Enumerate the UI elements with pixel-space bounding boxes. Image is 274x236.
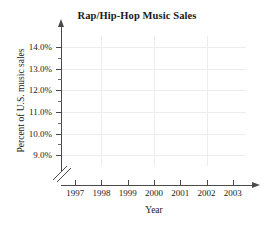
x-axis-arrow-icon: [252, 182, 260, 188]
gridline-vertical: [101, 36, 102, 166]
x-axis-tick-major: [154, 180, 155, 185]
y-axis-title: Percent of U.S. music sales: [16, 26, 27, 176]
x-axis-tick-major: [207, 180, 208, 185]
chart-container: Rap/Hip-Hop Music Sales 9.0%10.0%11.0%12…: [0, 0, 274, 236]
y-axis-tick-major: [56, 112, 62, 113]
y-axis-line: [61, 26, 62, 172]
y-axis-tick-major: [56, 69, 62, 70]
y-axis-tick-minor: [58, 101, 62, 102]
x-axis-tick-major: [233, 180, 234, 185]
x-axis-tick-major: [128, 180, 129, 185]
y-axis-tick-labels: 9.0%10.0%11.0%12.0%13.0%14.0%: [6, 0, 52, 236]
y-axis-arrow-icon: [58, 19, 64, 27]
y-axis-tick-minor: [58, 123, 62, 124]
gridline-vertical: [154, 36, 155, 166]
y-axis-tick-major: [56, 134, 62, 135]
y-axis-tick-minor: [58, 58, 62, 59]
plot-area: [62, 36, 246, 166]
x-axis-tick-label: 2003: [216, 188, 250, 198]
y-axis-tick-major: [56, 47, 62, 48]
x-axis-tick-major: [75, 180, 76, 185]
y-axis-tick-minor: [58, 79, 62, 80]
y-axis-tick-minor: [58, 144, 62, 145]
x-axis-tick-major: [180, 180, 181, 185]
x-axis-tick-major: [101, 180, 102, 185]
y-axis-tick-major: [56, 90, 62, 91]
x-axis-title: Year: [62, 205, 246, 216]
y-axis-break-icon: [51, 163, 73, 185]
gridline-vertical: [207, 36, 208, 166]
x-axis-line: [61, 185, 253, 186]
y-axis-tick-major: [56, 155, 62, 156]
